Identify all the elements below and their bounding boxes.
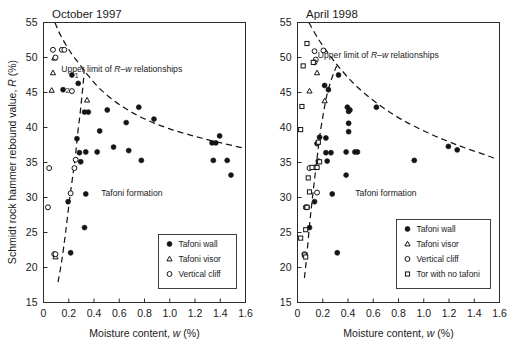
x-tick-label: 1.0	[416, 307, 431, 319]
scatter-figure: October 199715202530354045505500.20.40.6…	[0, 0, 519, 360]
marker-tafoni-wall	[83, 150, 88, 155]
y-tick-label: 20	[280, 261, 292, 273]
marker-tafoni-visor	[307, 88, 312, 93]
marker-vertical-cliff	[73, 157, 78, 162]
marker-tor-no-tafoni	[311, 60, 315, 64]
y-tick-label: 55	[26, 16, 38, 28]
legend: Tafoni wallTafoni visorVertical cliff	[159, 235, 237, 289]
marker-tafoni-wall	[336, 73, 341, 78]
marker-tor-no-tafoni	[304, 228, 308, 232]
marker-tafoni-wall	[346, 121, 351, 126]
marker-tafoni-wall	[347, 108, 352, 113]
marker-vertical-cliff	[62, 47, 67, 52]
x-tick-label: 1.6	[238, 307, 253, 319]
marker-tafoni-wall	[86, 110, 91, 115]
marker-tafoni-wall	[322, 83, 327, 88]
marker-vertical-cliff	[69, 89, 74, 94]
marker-tafoni-wall	[446, 144, 451, 149]
marker-tafoni-wall	[74, 136, 79, 141]
y-tick-label: 50	[280, 51, 292, 63]
figure-container: October 199715202530354045505500.20.40.6…	[0, 0, 519, 360]
upper-limit-curve	[55, 23, 243, 148]
x-axis: 00.20.40.60.81.01.21.41.6	[41, 299, 253, 319]
x-tick-label: 0.6	[112, 307, 127, 319]
marker-tor-no-tafoni	[405, 272, 409, 276]
marker-vertical-cliff	[315, 190, 320, 195]
point-label-2: 2	[66, 86, 70, 95]
marker-tafoni-wall	[124, 120, 129, 125]
marker-tafoni-visor	[84, 97, 89, 102]
annotations: Upper limit of R–w relationshipsTafoni f…	[318, 50, 439, 199]
marker-tafoni-wall	[335, 250, 340, 255]
x-tick-label: 0.4	[87, 307, 102, 319]
y-tick-label: 30	[26, 191, 38, 203]
series-vertical-cliff	[302, 48, 326, 257]
marker-tor-no-tafoni	[300, 104, 304, 108]
marker-tafoni-wall	[76, 81, 81, 86]
y-tick-label: 25	[26, 226, 38, 238]
marker-tafoni-wall	[139, 158, 144, 163]
marker-tafoni-wall	[167, 242, 172, 247]
marker-tafoni-wall	[111, 145, 116, 150]
marker-tor-no-tafoni	[299, 128, 303, 132]
y-tick-label: 50	[26, 51, 38, 63]
marker-vertical-cliff	[405, 257, 410, 262]
x-axis-title: Moisture content, w (%)	[343, 327, 453, 339]
marker-vertical-cliff	[47, 166, 52, 171]
x-tick-label: 0.8	[391, 307, 406, 319]
marker-tafoni-wall	[105, 108, 110, 113]
x-tick-label: 0.4	[341, 307, 356, 319]
marker-tafoni-wall	[82, 225, 87, 230]
marker-tafoni-wall	[66, 199, 71, 204]
y-tick-label: 20	[26, 261, 38, 273]
y-tick-label: 45	[280, 86, 292, 98]
x-tick-label: 1.6	[492, 307, 507, 319]
marker-tafoni-wall	[328, 150, 333, 155]
marker-vertical-cliff	[312, 49, 317, 54]
marker-tafoni-wall	[344, 173, 349, 178]
marker-vertical-cliff	[68, 191, 73, 196]
y-tick-label: 35	[26, 156, 38, 168]
y-tick-label: 35	[280, 156, 292, 168]
x-tick-label: 0.2	[315, 307, 330, 319]
marker-tor-no-tafoni	[315, 165, 319, 169]
y-tick-label: 30	[280, 191, 292, 203]
x-tick-label: 1.2	[188, 307, 203, 319]
marker-tor-no-tafoni	[307, 190, 311, 194]
annot-R: R	[371, 50, 377, 60]
marker-tafoni-wall	[323, 136, 328, 141]
marker-tor-no-tafoni	[316, 140, 320, 144]
legend-label-vertical-cliff: Vertical cliff	[417, 254, 460, 264]
marker-tor-no-tafoni	[310, 165, 314, 169]
annot-w: w	[125, 64, 132, 74]
marker-tafoni-wall	[225, 158, 230, 163]
marker-tafoni-wall	[78, 159, 83, 164]
lower-limit-curve	[304, 66, 336, 278]
marker-tor-no-tafoni	[305, 205, 309, 209]
upper-limit-annotation: Upper limit of R–w relationships	[61, 64, 182, 74]
marker-tafoni-visor	[49, 88, 54, 93]
y-tick-label: 45	[26, 86, 38, 98]
x-tick-label: 1.2	[442, 307, 457, 319]
x-tick-label: 0.6	[366, 307, 381, 319]
marker-vertical-cliff	[53, 55, 58, 60]
legend-label-tafoni-visor: Tafoni visor	[417, 239, 460, 249]
x-tick-label: 1.4	[213, 307, 228, 319]
marker-tafoni-wall	[326, 87, 331, 92]
marker-tafoni-wall	[126, 148, 131, 153]
tafoni-formation-annotation: Tafoni formation	[101, 188, 162, 198]
marker-vertical-cliff	[53, 252, 58, 257]
marker-vertical-cliff	[45, 205, 50, 210]
y-tick-label: 40	[26, 121, 38, 133]
marker-tor-no-tafoni	[318, 160, 322, 164]
tafoni-formation-annotation: Tafoni formation	[355, 188, 416, 198]
marker-tafoni-wall	[374, 105, 379, 110]
x-tick-label: 1.4	[467, 307, 482, 319]
x-axis-variable: w	[173, 327, 182, 339]
marker-vertical-cliff	[167, 272, 172, 277]
marker-tafoni-wall	[323, 150, 328, 155]
marker-tafoni-wall	[330, 192, 335, 197]
y-axis: 152025303540455055	[26, 16, 48, 308]
annot-w: w	[382, 50, 389, 60]
x-tick-label: 0.8	[137, 307, 152, 319]
